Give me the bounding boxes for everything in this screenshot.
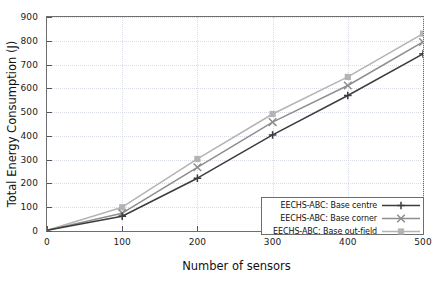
x-tickmark [47, 226, 48, 231]
y-tickmark [47, 112, 52, 113]
legend-sample-line [381, 200, 421, 211]
y-tickmark [47, 183, 52, 184]
y-tickmark [47, 160, 52, 161]
legend-label: EECHS-ABC: Base out-field [273, 227, 377, 236]
x-tickmark [197, 226, 198, 231]
square-marker [398, 228, 404, 234]
x-tick-label: 500 [414, 237, 431, 247]
y-tickmark [47, 65, 52, 66]
legend-item: EECHS-ABC: Base out-field [262, 225, 423, 237]
chart-figure: Total Energy Consumption (J) 01002003004… [0, 0, 439, 284]
y-tickmark [47, 231, 52, 232]
x-axis-label: Number of sensors [148, 259, 291, 273]
legend-label: EECHS-ABC: Base corner [280, 214, 377, 223]
x-tick-label: 400 [339, 237, 356, 247]
x-tick-label: 200 [189, 237, 206, 247]
y-tickmark [47, 136, 52, 137]
x-axis-tick-labels: 0100200300400500 [0, 237, 439, 251]
plus-marker [397, 201, 405, 209]
x-tick-label: 100 [113, 237, 130, 247]
x-tick-label: 0 [44, 237, 50, 247]
legend-item: EECHS-ABC: Base corner [262, 212, 423, 224]
x-tick-label: 300 [264, 237, 281, 247]
y-tickmark [47, 88, 52, 89]
y-tickmark [47, 207, 52, 208]
x-axis-label-container: Number of sensors [0, 259, 439, 273]
y-tickmark [47, 41, 52, 42]
legend-label: EECHS-ABC: Base centre [280, 201, 377, 210]
legend-sample-line [381, 226, 421, 237]
x-tickmark [122, 226, 123, 231]
legend-item: EECHS-ABC: Base centre [262, 199, 423, 211]
legend-sample-line [381, 213, 421, 224]
y-tickmark [47, 17, 52, 18]
chart-legend: EECHS-ABC: Base centreEECHS-ABC: Base co… [261, 197, 424, 235]
